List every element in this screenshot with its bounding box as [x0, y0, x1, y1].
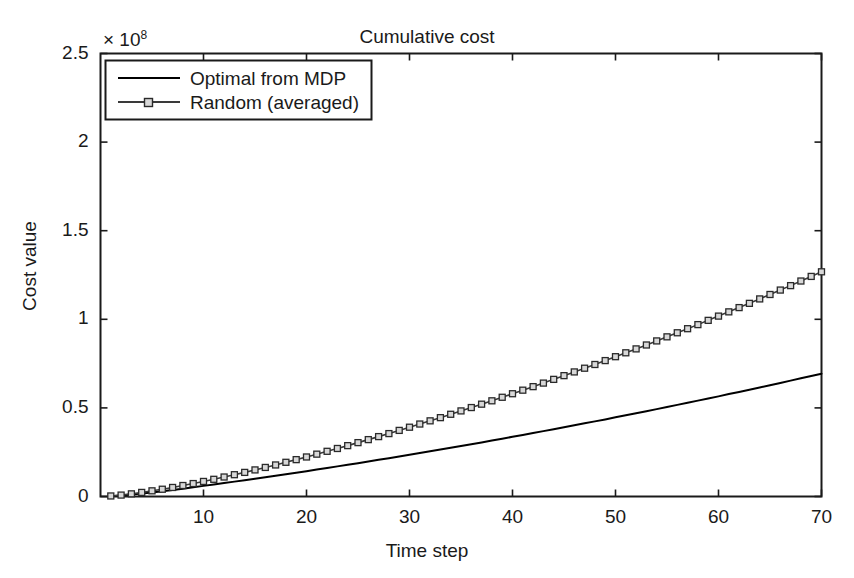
series-marker [283, 459, 289, 465]
series-marker [798, 278, 804, 284]
series-marker [716, 313, 722, 319]
series-marker [664, 334, 670, 340]
series-marker [530, 384, 536, 390]
legend-label-optimal: Optimal from MDP [190, 68, 346, 90]
series-marker [788, 283, 794, 289]
series-marker [623, 350, 629, 356]
series-marker [128, 491, 134, 497]
y-tick-label-2.5: 2.5 [29, 42, 89, 64]
series-marker [417, 421, 423, 427]
chart-canvas [0, 0, 854, 578]
series-marker [427, 418, 433, 424]
series-marker [231, 472, 237, 478]
series-marker [334, 445, 340, 451]
x-tick-label-10: 10 [174, 506, 234, 528]
series-marker [293, 457, 299, 463]
series-marker [355, 440, 361, 446]
x-tick-label-30: 30 [380, 506, 440, 528]
x-tick-label-60: 60 [689, 506, 749, 528]
y-tick-label-2: 2 [29, 130, 89, 152]
x-tick-label-40: 40 [483, 506, 543, 528]
series-marker [479, 401, 485, 407]
series-marker [407, 424, 413, 430]
series-marker [489, 398, 495, 404]
series-marker [819, 269, 825, 275]
series-marker [499, 394, 505, 400]
legend-swatch-random-marker [145, 99, 153, 107]
series-marker [777, 287, 783, 293]
series-line-random-averaged [111, 272, 822, 496]
y-axis-exponent: × 108 [103, 28, 147, 51]
series-marker [221, 474, 227, 480]
series-marker [437, 415, 443, 421]
y-tick-label-0.5: 0.5 [29, 396, 89, 418]
series-marker [633, 346, 639, 352]
series-marker [262, 464, 268, 470]
series-marker [324, 448, 330, 454]
series-marker [149, 488, 155, 494]
series-marker [736, 305, 742, 311]
series-marker [757, 296, 763, 302]
series-marker [386, 431, 392, 437]
series-marker [808, 273, 814, 279]
series-marker [643, 342, 649, 348]
data-series-layer [108, 269, 825, 499]
series-marker [468, 405, 474, 411]
series-marker [551, 376, 557, 382]
series-marker [242, 469, 248, 475]
series-marker [654, 338, 660, 344]
x-tick-label-20: 20 [277, 506, 337, 528]
y-tick-label-1.5: 1.5 [29, 219, 89, 241]
series-marker [304, 454, 310, 460]
series-marker [746, 300, 752, 306]
x-axis-label: Time step [0, 540, 854, 562]
chart-figure: Cumulative cost × 108 Time step Cost val… [0, 0, 854, 578]
series-marker [252, 467, 258, 473]
series-marker [458, 408, 464, 414]
series-marker [108, 493, 114, 499]
legend-label-random: Random (averaged) [190, 92, 359, 114]
y-exponent-power: 8 [141, 28, 148, 42]
series-marker [273, 462, 279, 468]
series-marker [582, 365, 588, 371]
y-exponent-prefix: × 10 [103, 29, 141, 50]
series-marker [674, 330, 680, 336]
series-marker [767, 291, 773, 297]
series-marker [180, 483, 186, 489]
series-marker [685, 326, 691, 332]
x-tick-label-50: 50 [586, 506, 646, 528]
series-marker [540, 380, 546, 386]
series-marker [561, 373, 567, 379]
series-marker [448, 411, 454, 417]
series-marker [365, 437, 371, 443]
x-tick-label-70: 70 [792, 506, 852, 528]
y-tick-label-0: 0 [29, 485, 89, 507]
series-marker [190, 481, 196, 487]
series-marker [139, 489, 145, 495]
series-marker [376, 434, 382, 440]
series-marker [705, 317, 711, 323]
series-marker [159, 486, 165, 492]
series-marker [170, 484, 176, 490]
series-marker [211, 476, 217, 482]
series-marker [726, 309, 732, 315]
series-marker [396, 427, 402, 433]
series-marker [201, 478, 207, 484]
series-marker [520, 387, 526, 393]
series-marker [613, 354, 619, 360]
series-marker [118, 492, 124, 498]
series-marker [345, 443, 351, 449]
series-marker [571, 369, 577, 375]
series-marker [592, 361, 598, 367]
series-marker [695, 322, 701, 328]
series-marker [314, 451, 320, 457]
series-marker [510, 391, 516, 397]
series-marker [602, 358, 608, 364]
y-tick-label-1: 1 [29, 307, 89, 329]
